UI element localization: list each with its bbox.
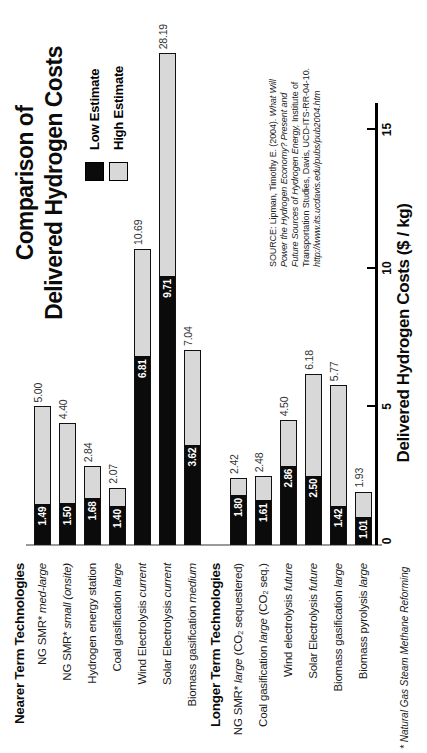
low-estimate-value: 1.61 (258, 500, 269, 522)
bar-row: NG SMR* large (CO₂ sequestered)1.802.42 (226, 0, 251, 753)
high-estimate-value: 4.50 (278, 397, 290, 417)
low-estimate-value: 2.86 (283, 466, 294, 488)
high-estimate-value: 2.48 (253, 453, 265, 473)
range-bar: 1.42 (330, 385, 347, 545)
high-estimate-value: 2.07 (107, 464, 119, 484)
range-bar: 1.61 (255, 476, 272, 545)
low-estimate-value: 1.01 (358, 517, 369, 539)
bar-row: Coal gasification large1.402.07 (105, 0, 130, 753)
category-label: Biomass gasification medium (180, 563, 205, 753)
high-estimate-value: 2.42 (228, 454, 240, 474)
category-label: Wind electrolysis future (276, 563, 301, 753)
category-label: Solar Electrolysis future (301, 563, 326, 753)
group-header: Longer Term Technologies (205, 563, 226, 753)
bar-row: Hydrogen energy station1.682.84 (80, 0, 105, 753)
range-bar: 9.71 (159, 53, 176, 545)
low-estimate-value: 1.68 (87, 498, 98, 520)
x-axis-label: Delivered Hydrogen Costs ($ / kg) (394, 143, 414, 523)
screenshot-viewport: Comparison of Delivered Hydrogen Costs L… (0, 0, 427, 753)
high-estimate-value: 28.19 (157, 24, 169, 49)
high-estimate-value: 5.77 (328, 362, 340, 382)
low-estimate-segment: 2.50 (306, 476, 321, 544)
low-estimate-value: 9.71 (162, 276, 173, 298)
bar-row: Biomass gasification medium3.627.04 (180, 0, 205, 753)
low-estimate-segment: 2.86 (281, 466, 296, 544)
low-estimate-value: 1.80 (233, 495, 244, 517)
bar-row: Solar Electrolysis current9.7128.19 (155, 0, 180, 753)
low-estimate-segment: 1.42 (331, 506, 346, 544)
bar-row: NG SMR* small (onsite)1.504.40 (55, 0, 80, 753)
range-bar: 1.50 (59, 423, 76, 545)
range-bar: 2.50 (305, 374, 322, 545)
category-label: Solar Electrolysis current (155, 563, 180, 753)
high-estimate-value: 10.69 (132, 220, 144, 245)
low-estimate-value: 3.62 (187, 445, 198, 467)
low-estimate-segment: 1.61 (256, 500, 271, 544)
high-estimate-value: 6.18 (303, 350, 315, 370)
category-label: NG SMR* med-large (30, 563, 55, 753)
bar-row: Wind Electrolysis current6.8110.69 (130, 0, 155, 753)
range-bar: 3.62 (184, 350, 201, 545)
footnote: * Natural Gas Steam Methane Reforming (399, 567, 410, 749)
range-bar: 1.80 (230, 478, 247, 545)
range-bar: 1.68 (84, 466, 101, 545)
high-estimate-value: 7.04 (182, 326, 194, 346)
low-estimate-value: 2.50 (308, 476, 319, 498)
range-bar: 2.86 (280, 420, 297, 545)
low-estimate-value: 1.50 (62, 503, 73, 525)
low-estimate-value: 1.42 (333, 506, 344, 528)
plot-area: 051015Nearer Term TechnologiesNG SMR* me… (0, 0, 427, 753)
category-label: Wind Electrolysis current (130, 563, 155, 753)
high-estimate-value: 5.00 (32, 383, 44, 403)
low-estimate-segment: 1.50 (60, 503, 75, 544)
low-estimate-value: 6.81 (137, 356, 148, 378)
bar-row: NG SMR* med-large1.495.00 (30, 0, 55, 753)
axis-tick-label: 5 (380, 392, 394, 422)
bar-row: Wind electrolysis future2.864.50 (276, 0, 301, 753)
axis-tick-label: 0 (380, 526, 394, 556)
group-header: Nearer Term Technologies (9, 563, 30, 753)
category-label: Hydrogen energy station (80, 563, 105, 753)
axis-tick-label: 15 (380, 115, 394, 145)
bar-row: Biomass gasification large1.425.77 (326, 0, 351, 753)
category-label: Coal gasification large (CO₂ seq.) (251, 563, 276, 753)
low-estimate-segment: 1.49 (35, 504, 50, 544)
range-bar: 6.81 (134, 249, 151, 545)
low-estimate-segment: 3.62 (185, 445, 200, 544)
high-estimate-value: 1.93 (353, 468, 365, 488)
low-estimate-segment: 1.80 (231, 495, 246, 544)
bar-row: Biomass pyrolysis large1.011.93 (351, 0, 376, 753)
bar-row: Solar Electrolysis future2.506.18 (301, 0, 326, 753)
high-estimate-value: 2.84 (82, 443, 94, 463)
low-estimate-segment: 6.81 (135, 356, 150, 544)
category-label: NG SMR* small (onsite) (55, 563, 80, 753)
axis-tick-label: 10 (380, 253, 394, 283)
category-label: Biomass pyrolysis large (351, 563, 376, 753)
category-label: Biomass gasification large (326, 563, 351, 753)
low-estimate-value: 1.40 (112, 506, 123, 528)
low-estimate-segment: 9.71 (160, 276, 175, 544)
high-estimate-value: 4.40 (57, 399, 69, 419)
category-label: Coal gasification large (105, 563, 130, 753)
range-bar: 1.01 (355, 492, 372, 545)
bar-row: Coal gasification large (CO₂ seq.)1.612.… (251, 0, 276, 753)
range-bar: 1.49 (34, 407, 51, 546)
low-estimate-value: 1.49 (37, 504, 48, 526)
low-estimate-segment: 1.01 (356, 517, 371, 544)
range-bar: 1.40 (109, 488, 126, 545)
low-estimate-segment: 1.68 (85, 498, 100, 544)
low-estimate-segment: 1.40 (110, 506, 125, 544)
hydrogen-cost-chart: Comparison of Delivered Hydrogen Costs L… (0, 0, 427, 753)
category-label: NG SMR* large (CO₂ sequestered) (226, 563, 251, 753)
